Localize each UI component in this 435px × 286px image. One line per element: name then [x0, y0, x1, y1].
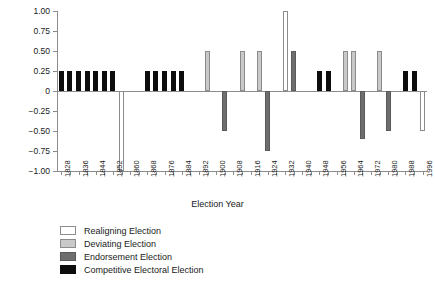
y-tick: [53, 51, 57, 52]
legend-swatch-endorsement: [60, 252, 76, 261]
x-tick-label: 1836: [82, 160, 90, 177]
bar-1932: [283, 11, 288, 91]
y-tick-label: 0: [10, 87, 50, 96]
bar-1924: [265, 91, 270, 151]
x-tick: [113, 171, 114, 175]
legend-item-realigning: Realigning Election: [60, 224, 204, 237]
x-tick-label: 1892: [202, 160, 210, 177]
x-tick: [79, 171, 80, 175]
bar-1948: [317, 71, 322, 91]
bar-1988: [403, 71, 408, 91]
x-tick: [130, 171, 131, 175]
bar-1968: [360, 91, 365, 139]
bar-1904: [222, 91, 227, 131]
x-tick-label: 1844: [99, 160, 107, 177]
legend-item-endorsement: Endorsement Election: [60, 250, 204, 263]
bar-1832: [67, 71, 72, 91]
x-tick-label: 1956: [340, 160, 348, 177]
y-tick: [53, 171, 57, 172]
bar-1880: [171, 71, 176, 91]
y-tick: [53, 111, 57, 112]
x-tick-label: 1916: [254, 160, 262, 177]
legend-swatch-deviating: [60, 239, 76, 248]
x-tick: [371, 171, 372, 175]
legend-label-competitive: Competitive Electoral Election: [84, 265, 204, 275]
legend-swatch-realigning: [60, 226, 76, 235]
y-tick: [53, 131, 57, 132]
legend-item-deviating: Deviating Election: [60, 237, 204, 250]
x-tick: [268, 171, 269, 175]
election-bar-chart: 1.000.750.500.250−0.25−0.50−0.75−1.00 18…: [0, 0, 435, 286]
y-tick: [53, 71, 57, 72]
y-tick: [53, 151, 57, 152]
x-tick: [199, 171, 200, 175]
bar-1976: [377, 51, 382, 91]
y-tick-label: 0.50: [10, 47, 50, 56]
y-tick-label: 0.25: [10, 67, 50, 76]
chart-legend: Realigning ElectionDeviating ElectionEnd…: [60, 224, 204, 276]
y-tick-label: 1.00: [10, 7, 50, 16]
y-tick-label: −0.50: [10, 127, 50, 136]
bar-1896: [205, 51, 210, 91]
bar-1992: [412, 71, 417, 91]
y-tick-label: −1.00: [10, 167, 50, 176]
x-tick-label: 1852: [116, 160, 124, 177]
plot-area: [57, 11, 427, 171]
bar-1836: [76, 71, 81, 91]
bar-1876: [162, 71, 167, 91]
x-tick-label: 1828: [64, 160, 72, 177]
y-tick: [53, 11, 57, 12]
x-tick-label: 1924: [271, 160, 279, 177]
bar-1980: [386, 91, 391, 131]
x-tick-label: 1932: [288, 160, 296, 177]
x-tick-label: 1996: [426, 160, 434, 177]
x-tick: [423, 171, 424, 175]
bar-1844: [93, 71, 98, 91]
bar-1852: [110, 71, 115, 91]
bar-1936: [291, 51, 296, 91]
x-tick: [337, 171, 338, 175]
zero-baseline: [57, 91, 427, 92]
bar-1840: [85, 71, 90, 91]
bar-1920: [257, 51, 262, 91]
x-tick: [182, 171, 183, 175]
bar-1952: [326, 71, 331, 91]
y-tick-label: −0.25: [10, 107, 50, 116]
legend-swatch-competitive: [60, 265, 76, 274]
x-tick-label: 1860: [133, 160, 141, 177]
x-tick-label: 1900: [219, 160, 227, 177]
legend-item-competitive: Competitive Electoral Election: [60, 263, 204, 276]
bar-1960: [343, 51, 348, 91]
y-tick: [53, 31, 57, 32]
legend-label-endorsement: Endorsement Election: [84, 252, 172, 262]
legend-label-deviating: Deviating Election: [84, 239, 156, 249]
bar-1856: [119, 91, 124, 171]
x-tick: [354, 171, 355, 175]
x-tick: [96, 171, 97, 175]
bar-1848: [102, 71, 107, 91]
legend-label-realigning: Realigning Election: [84, 226, 161, 236]
x-tick-label: 1980: [391, 160, 399, 177]
x-tick-label: 1972: [374, 160, 382, 177]
x-tick-label: 1948: [322, 160, 330, 177]
x-tick-label: 1868: [150, 160, 158, 177]
x-tick: [285, 171, 286, 175]
bar-1868: [145, 71, 150, 91]
x-tick-label: 1908: [236, 160, 244, 177]
x-axis-title: Election Year: [0, 199, 435, 209]
x-tick-label: 1988: [408, 160, 416, 177]
bar-1996: [420, 91, 425, 131]
x-tick: [165, 171, 166, 175]
bar-1828: [59, 71, 64, 91]
x-tick-label: 1964: [357, 160, 365, 177]
y-tick-label: 0.75: [10, 27, 50, 36]
x-tick: [251, 171, 252, 175]
bar-1912: [240, 51, 245, 91]
x-tick-label: 1940: [305, 160, 313, 177]
y-tick-label: −0.75: [10, 147, 50, 156]
x-tick-label: 1876: [168, 160, 176, 177]
y-tick: [53, 91, 57, 92]
x-tick-label: 1884: [185, 160, 193, 177]
bar-1884: [179, 71, 184, 91]
bar-1964: [351, 51, 356, 91]
